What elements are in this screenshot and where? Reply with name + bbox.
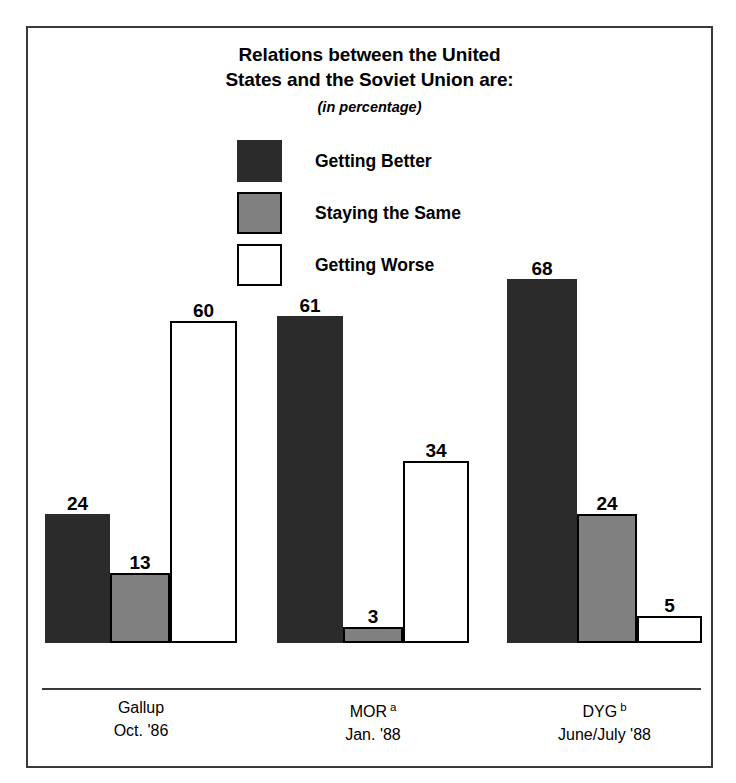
bar: 68 xyxy=(507,279,577,643)
bar-value-label: 61 xyxy=(299,296,320,315)
bar: 13 xyxy=(110,573,170,643)
bar: 5 xyxy=(637,616,702,643)
bar-value-label: 5 xyxy=(664,596,675,615)
bar-value-label: 3 xyxy=(368,607,379,626)
bar: 60 xyxy=(170,321,237,643)
bar: 3 xyxy=(343,627,403,643)
group-label-footnote-marker: a xyxy=(390,701,396,713)
group-label-footnote-marker: b xyxy=(620,701,626,713)
bar-value-label: 24 xyxy=(596,494,617,513)
group-label: DYGbJune/July '88 xyxy=(507,696,702,746)
group-label-date: Oct. '86 xyxy=(45,719,237,742)
bar: 34 xyxy=(403,461,469,643)
bar: 24 xyxy=(577,514,637,643)
chart-frame: Relations between the United States and … xyxy=(26,26,713,768)
bar-value-label: 13 xyxy=(129,553,150,572)
plot-area: 241360GallupOct. '8661334MORaJan. '88682… xyxy=(28,28,711,766)
group-label-date: June/July '88 xyxy=(507,723,702,746)
group-label-date: Jan. '88 xyxy=(277,723,469,746)
bar-value-label: 34 xyxy=(425,441,446,460)
axis-baseline xyxy=(42,688,701,690)
group-label: MORaJan. '88 xyxy=(277,696,469,746)
bar: 24 xyxy=(45,514,110,643)
group-label-name: MORa xyxy=(277,696,469,723)
bar: 61 xyxy=(277,316,343,643)
group-label-name: DYGb xyxy=(507,696,702,723)
bar-value-label: 68 xyxy=(531,259,552,278)
group-label: GallupOct. '86 xyxy=(45,696,237,742)
bar-value-label: 24 xyxy=(67,494,88,513)
group-label-name: Gallup xyxy=(45,696,237,719)
bar-value-label: 60 xyxy=(193,301,214,320)
